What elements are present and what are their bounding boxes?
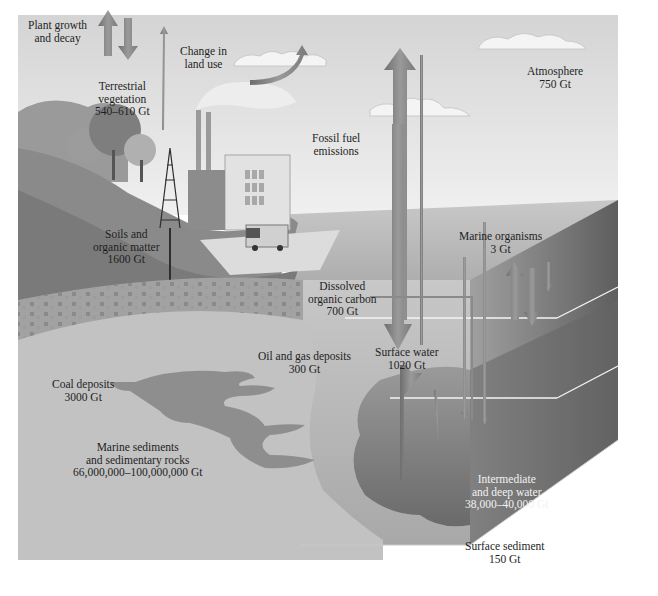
label-fossil-fuel: Fossil fuel emissions — [312, 132, 360, 157]
factory-side — [188, 170, 225, 230]
factory-building — [225, 155, 290, 230]
label-terrestrial-vegetation: Terrestrial vegetation 540–610 Gt — [95, 80, 150, 118]
label-oil-gas: Oil and gas deposits 300 Gt — [258, 350, 351, 375]
label-atmosphere: Atmosphere 750 Gt — [527, 65, 583, 90]
label-land-use: Change in land use — [180, 45, 227, 70]
label-plant-growth: Plant growth and decay — [28, 19, 87, 44]
label-coal: Coal deposits 3000 Gt — [52, 378, 114, 403]
label-surface-water: Surface water 1020 Gt — [375, 346, 439, 371]
truck — [246, 225, 288, 251]
label-soils: Soils and organic matter 1600 Gt — [93, 228, 160, 266]
label-deep-water: Intermediate and deep water 38,000–40,00… — [465, 473, 548, 511]
label-surface-sediment: Surface sediment 150 Gt — [465, 540, 545, 565]
label-marine-organisms: Marine organisms 3 Gt — [459, 230, 542, 255]
label-dissolved-organic-carbon: Dissolved organic carbon 700 Gt — [308, 280, 376, 318]
label-marine-sediments: Marine sediments and sedimentary rocks 6… — [73, 441, 202, 479]
smokestack-1 — [196, 110, 201, 180]
factory-windows — [245, 170, 264, 205]
